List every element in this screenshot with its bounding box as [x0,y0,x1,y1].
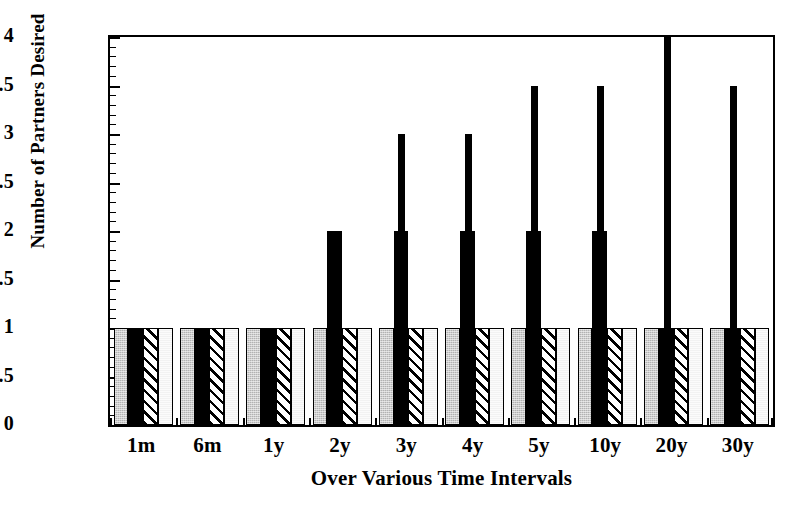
bar-10y-series1 [578,328,593,425]
x-axis-tick [574,418,576,425]
x-axis-tick [243,418,245,425]
x-axis-tick-label-3y: 3y [396,433,417,458]
y-axis-major-tick [110,134,120,136]
bar-1y-series3 [276,328,291,425]
y-axis-major-tick [110,425,120,427]
x-axis-title: Over Various Time Intervals [108,466,775,491]
y-axis-major-tick [110,37,120,39]
y-axis-major-tick [110,231,120,233]
y-axis-minor-tick [110,250,116,251]
x-axis-tick-label-6m: 6m [193,433,221,458]
y-axis-major-tick [110,86,120,88]
bar-2y-series4 [357,328,372,425]
y-axis-tick-label: 2.5 [0,169,14,192]
y-axis-minor-tick [110,56,116,57]
bar-10y-series2 [592,231,607,425]
bar-30y-series4 [755,328,770,425]
y-axis-minor-tick [110,241,116,242]
y-axis-minor-tick [110,202,116,203]
bar-1y-series1 [246,328,261,425]
y-axis-tick-label: 2 [0,218,14,241]
y-axis-minor-tick [110,76,116,77]
x-axis-tick [771,418,773,425]
x-axis-tick [309,418,311,425]
chart-figure: Number of Partners Desired Over Various … [0,0,796,516]
bar-4y-series4 [489,328,504,425]
bar-10y-series4 [622,328,637,425]
y-axis-tick-label: 0 [0,412,14,435]
bar-30y-series3 [740,328,755,425]
y-axis-title: Number of Partners Desired [27,0,49,321]
bar-20y-series1 [644,328,659,425]
y-axis-tick-label: 4 [0,24,14,47]
y-axis-minor-tick [110,153,116,154]
x-axis-tick [110,418,112,425]
x-axis-tick [375,418,377,425]
bar-3y-series2 [394,231,409,425]
bar-1m-series1 [114,328,129,425]
y-axis-tick-label: 3.5 [0,72,14,95]
bar-1y-series2 [261,328,276,425]
bar-3y-series3 [408,328,423,425]
bar-10y-series3 [607,328,622,425]
y-axis-minor-tick [110,115,116,116]
bar-3y-series4 [423,328,438,425]
y-axis-minor-tick [110,163,116,164]
y-axis-minor-tick [110,47,116,48]
y-axis-minor-tick [110,299,116,300]
y-axis-minor-tick [110,124,116,125]
bar-6m-series2 [195,328,210,425]
bar-2y-series2 [327,231,342,425]
y-axis-minor-tick [110,105,116,106]
x-axis-tick-label-30y: 30y [722,433,754,458]
x-axis-tick [508,418,510,425]
bar-1y-series4 [291,328,306,425]
y-axis-major-tick [110,183,120,185]
bar-20y-series4 [688,328,703,425]
x-axis-tick [442,418,444,425]
y-axis-minor-tick [110,144,116,145]
x-axis-tick-label-4y: 4y [462,433,483,458]
bar-5y-series3 [541,328,556,425]
y-axis-minor-tick [110,221,116,222]
x-axis-tick-label-1y: 1y [263,433,284,458]
bar-5y-series2 [526,231,541,425]
y-axis-minor-tick [110,192,116,193]
bar-1m-series3 [143,328,158,425]
x-axis-tick-label-1m: 1m [127,433,155,458]
bar-5y-series1 [511,328,526,425]
bar-20y-series2 [659,328,674,425]
y-axis-minor-tick [110,260,116,261]
y-axis-tick-label: 1.5 [0,266,14,289]
bar-20y-series3 [674,328,689,425]
x-axis-tick [176,418,178,425]
y-axis-tick-label: 1 [0,315,14,338]
bar-3y-series1 [379,328,394,425]
x-axis-tick-label-5y: 5y [528,433,549,458]
plot-area [108,35,775,427]
bar-2y-series1 [313,328,328,425]
bar-30y-series2 [725,328,740,425]
bar-4y-series1 [445,328,460,425]
bar-30y-series1 [710,328,725,425]
y-axis-minor-tick [110,309,116,310]
y-axis-minor-tick [110,66,116,67]
bar-1m-series4 [158,328,173,425]
x-axis-tick [640,418,642,425]
bar-5y-series4 [556,328,571,425]
y-axis-minor-tick [110,212,116,213]
bar-4y-series3 [475,328,490,425]
y-axis-minor-tick [110,173,116,174]
bar-1m-series2 [128,328,143,425]
bar-6m-series4 [224,328,239,425]
bar-6m-series3 [209,328,224,425]
x-axis-tick-label-10y: 10y [589,433,621,458]
bar-4y-series2 [460,231,475,425]
bar-2y-series3 [342,328,357,425]
y-axis-minor-tick [110,270,116,271]
bar-6m-series1 [180,328,195,425]
y-axis-major-tick [110,280,120,282]
x-axis-tick-label-2y: 2y [329,433,350,458]
y-axis-tick-label: 3 [0,121,14,144]
y-axis-minor-tick [110,318,116,319]
